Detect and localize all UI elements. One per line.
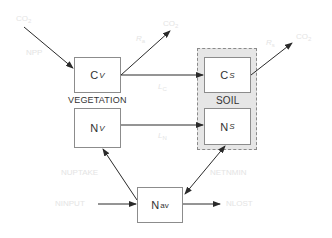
netnmin-label: NETNMIN <box>210 168 246 177</box>
ns-node: NS <box>204 108 251 145</box>
nav-sub: av <box>160 201 168 210</box>
npp-label: NPP <box>26 48 42 57</box>
cv-node: CV <box>74 57 121 93</box>
lc-label: LC <box>158 82 167 92</box>
co2-out-soil-label: CO2 <box>296 32 311 42</box>
vegetation-label: VEGETATION <box>68 95 127 105</box>
co2-in-label: CO2 <box>16 14 31 24</box>
cs-sub: S <box>229 71 234 80</box>
soil-label: SOIL <box>216 95 240 106</box>
nv-sub: V <box>99 124 104 133</box>
ns-main: N <box>220 121 228 133</box>
carbon-nitrogen-diagram: CV VEGETATION NV CS SOIL NS Nav CO2 NPP … <box>0 0 332 238</box>
cs-main: C <box>220 69 228 81</box>
nv-node: NV <box>74 108 121 148</box>
ln-label: LN <box>158 131 167 141</box>
cv-main: C <box>90 69 98 81</box>
ra-label: Ra <box>136 34 145 44</box>
nav-main: N <box>151 199 159 211</box>
ra-arrow <box>121 31 170 75</box>
co2-out-veg-label: CO2 <box>163 19 178 29</box>
cs-node: CS <box>204 57 251 93</box>
rs-label: Rs <box>266 38 275 48</box>
nv-main: N <box>90 122 98 134</box>
ns-sub: S <box>229 122 234 131</box>
nuptake-arrow <box>103 149 137 200</box>
ninput-label: NINPUT <box>55 199 85 208</box>
cv-sub: V <box>99 71 104 80</box>
nav-node: Nav <box>137 187 183 223</box>
nlost-label: NLOST <box>226 199 253 208</box>
nuptake-label: NUPTAKE <box>61 168 98 177</box>
